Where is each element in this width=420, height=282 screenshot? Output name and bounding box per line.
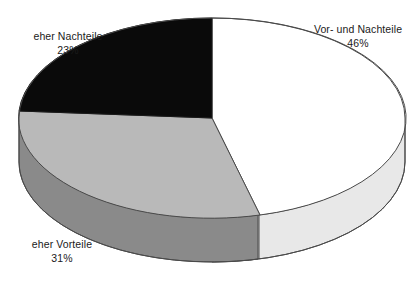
- slice-label-value: 31%: [0, 251, 124, 265]
- slice-label-name: Vor- und Nachteile: [296, 22, 420, 36]
- slice-label-value: 23%: [6, 43, 130, 57]
- pie-chart: Vor- und Nachteile 46% eher Nachteile 23…: [0, 0, 420, 282]
- slice-label-name: eher Nachteile: [6, 29, 130, 43]
- slice-label-eher-vorteile: eher Vorteile 31%: [0, 237, 124, 265]
- slice-label-eher-nachteile: eher Nachteile 23%: [6, 29, 130, 57]
- slice-label-value: 46%: [296, 36, 420, 50]
- slice-label-vor-und-nachteile: Vor- und Nachteile 46%: [296, 22, 420, 50]
- slice-label-name: eher Vorteile: [0, 237, 124, 251]
